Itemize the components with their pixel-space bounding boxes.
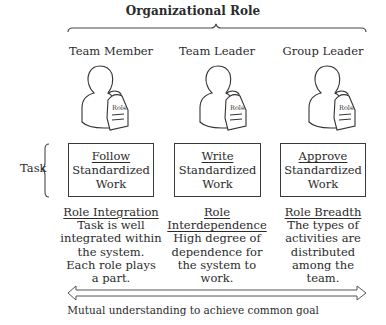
task-verb: Follow: [92, 149, 130, 163]
task-label: Task: [20, 161, 47, 175]
description-line: distributed: [268, 246, 378, 259]
description-role-integration: Role Integration Task is well integrated…: [56, 206, 166, 285]
org-role-brace: [68, 24, 366, 32]
task-line: Standardized: [72, 163, 150, 177]
task-line: Work: [96, 177, 126, 191]
person-with-role-doc-icon-1: Role: [82, 66, 128, 130]
task-box-write: Write Standardized Work: [174, 143, 261, 197]
description-line: a part.: [56, 272, 166, 285]
double-arrow: [68, 286, 366, 300]
role-label-team-leader: Team Leader: [162, 44, 272, 58]
footer-caption: Mutual understanding to achieve common g…: [0, 304, 386, 316]
description-role-interdependence: Role Interdependence High degree of depe…: [162, 206, 272, 285]
description-line: activities are: [268, 232, 378, 245]
svg-text:Role: Role: [230, 104, 245, 112]
description-line: the system.: [56, 246, 166, 259]
task-verb: Write: [202, 149, 234, 163]
description-line: team.: [268, 272, 378, 285]
task-line: Standardized: [284, 163, 362, 177]
task-line: Work: [308, 177, 338, 191]
person-with-role-doc-icon-2: Role: [200, 66, 246, 130]
task-line: Standardized: [179, 163, 257, 177]
task-verb: Approve: [299, 149, 348, 163]
svg-text:Role: Role: [339, 104, 354, 112]
task-line: Work: [202, 177, 232, 191]
task-box-follow: Follow Standardized Work: [68, 143, 154, 197]
description-line: dependence for: [162, 246, 272, 259]
task-box-approve: Approve Standardized Work: [280, 143, 366, 197]
description-line: work.: [162, 272, 272, 285]
description-role-breadth: Role Breadth The types of activities are…: [268, 206, 378, 285]
diagram-title: Organizational Role: [0, 4, 386, 18]
person-with-role-doc-icon-3: Role: [309, 66, 355, 130]
description-line: integrated within: [56, 232, 166, 245]
role-label-team-member: Team Member: [56, 44, 166, 58]
description-line: High degree of: [162, 232, 272, 245]
role-label-group-leader: Group Leader: [268, 44, 378, 58]
svg-text:Role: Role: [112, 104, 127, 112]
